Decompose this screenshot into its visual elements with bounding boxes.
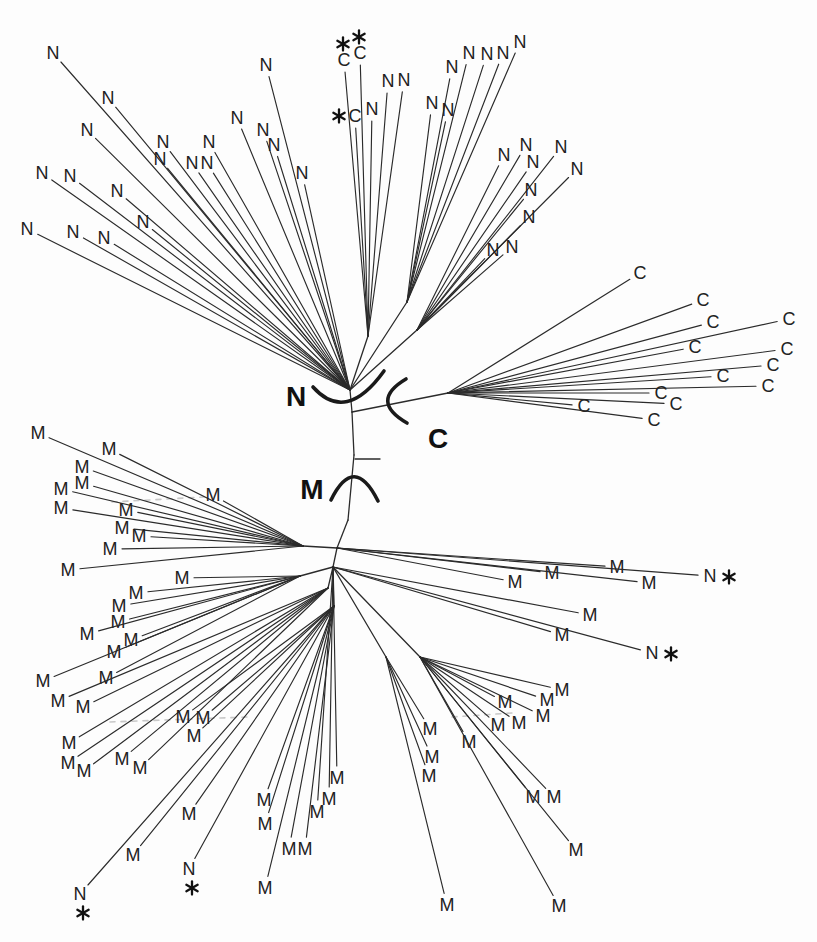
- tip-label-M: M: [61, 560, 76, 580]
- tip-label-N: N: [231, 108, 244, 128]
- tip-label-M: M: [111, 612, 126, 632]
- tip-label-M: M: [77, 761, 92, 781]
- tip-label-M: M: [555, 680, 570, 700]
- tip-label-C: C: [670, 394, 683, 414]
- tip-label-M: M: [330, 768, 345, 788]
- tip-label-C: C: [338, 50, 351, 70]
- tip-label-M: M: [440, 895, 455, 915]
- branch-line: [131, 576, 300, 604]
- internal-branch: [352, 412, 354, 455]
- tip-label-M: M: [133, 758, 148, 778]
- clade-label-C: C: [428, 423, 448, 454]
- tip-label-M: M: [102, 439, 117, 459]
- tip-label-N: N: [36, 163, 49, 183]
- branch-line: [170, 152, 350, 390]
- tip-label-M: M: [115, 518, 130, 538]
- tip-label-N: N: [81, 120, 94, 140]
- tip-label-M: M: [80, 624, 95, 644]
- tip-label-N: N: [186, 153, 199, 173]
- tip-label-M: M: [491, 715, 506, 735]
- branch-line: [114, 244, 350, 390]
- tip-label-M: M: [36, 671, 51, 691]
- tip-label-M: M: [298, 839, 313, 859]
- tip-label-N: N: [47, 43, 60, 63]
- tip-label-C: C: [578, 396, 591, 416]
- tip-label-M: M: [547, 787, 562, 807]
- tip-label-M: M: [425, 747, 440, 767]
- tip-label-N: N: [527, 152, 540, 172]
- branch-line: [417, 259, 485, 330]
- branch-line: [368, 92, 402, 336]
- tip-label-M: M: [176, 707, 191, 727]
- tip-label-N: N: [487, 240, 500, 260]
- tip-label-C: C: [689, 337, 702, 357]
- branch-line: [148, 576, 300, 592]
- tip-label-N: N: [183, 859, 196, 879]
- branch-line: [199, 173, 350, 390]
- branch-line: [213, 173, 350, 390]
- tip-label-N: N: [525, 180, 538, 200]
- tip-label-N: N: [268, 135, 281, 155]
- tip-label-N: N: [555, 137, 568, 157]
- tip-label-M: M: [258, 878, 273, 898]
- tip-label-N: N: [74, 884, 87, 904]
- branch-line: [126, 199, 350, 390]
- tip-label-M: M: [423, 719, 438, 739]
- tip-label-N: N: [506, 237, 519, 257]
- branch-line: [333, 567, 337, 766]
- tip-label-M: M: [62, 733, 77, 753]
- branch-line: [448, 393, 642, 418]
- tip-label-N: N: [137, 212, 150, 232]
- internal-branch: [352, 393, 448, 412]
- tip-label-C: C: [717, 366, 730, 386]
- tip-label-M: M: [175, 568, 190, 588]
- tip-label-M: M: [75, 473, 90, 493]
- branch-line: [61, 62, 350, 390]
- tip-label-M: M: [103, 539, 118, 559]
- tip-label-N: N: [442, 100, 455, 120]
- branch-line: [269, 77, 350, 390]
- tip-label-N: N: [398, 70, 411, 90]
- tip-label-M: M: [182, 804, 197, 824]
- branch-line: [149, 588, 328, 760]
- branch-line: [417, 255, 503, 330]
- tip-label-M: M: [119, 500, 134, 520]
- tip-label-M: M: [257, 790, 272, 810]
- tip-label-N: N: [481, 44, 494, 64]
- branch-line: [73, 492, 303, 546]
- clade-label-N: N: [286, 381, 306, 412]
- tip-label-M: M: [126, 845, 141, 865]
- tip-label-N: N: [154, 149, 167, 169]
- tip-label-C: C: [781, 339, 794, 359]
- tip-label-M: M: [422, 766, 437, 786]
- tip-label-C: C: [354, 43, 367, 63]
- tip-label-M: M: [76, 697, 91, 717]
- tip-label-C: C: [655, 383, 668, 403]
- tip-label-M: M: [31, 423, 46, 443]
- branch-line: [356, 128, 368, 336]
- tip-label-M: M: [129, 583, 144, 603]
- branch-line: [168, 168, 350, 390]
- branch-line: [407, 53, 515, 302]
- tip-label-C: C: [697, 290, 710, 310]
- tip-label-M: M: [54, 479, 69, 499]
- tip-label-M: M: [54, 498, 69, 518]
- branch-line: [80, 183, 350, 390]
- branch-line: [420, 657, 532, 711]
- tip-label-N: N: [446, 57, 459, 77]
- tip-label-M: M: [552, 896, 567, 916]
- tip-label-N: N: [463, 43, 476, 63]
- tip-label-M: M: [512, 713, 527, 733]
- internal-branch: [303, 546, 337, 548]
- tip-label-M: M: [206, 485, 221, 505]
- tip-label-N: N: [64, 166, 77, 186]
- tip-label-M: M: [187, 726, 202, 746]
- branch-line: [52, 180, 350, 390]
- tip-label-C: C: [783, 309, 796, 329]
- branch-line: [448, 393, 664, 403]
- tip-label-M: M: [258, 814, 273, 834]
- tip-label-N: N: [201, 153, 214, 173]
- tip-label-M: M: [61, 753, 76, 773]
- tip-label-N: N: [111, 181, 124, 201]
- tip-label-N: N: [704, 566, 717, 586]
